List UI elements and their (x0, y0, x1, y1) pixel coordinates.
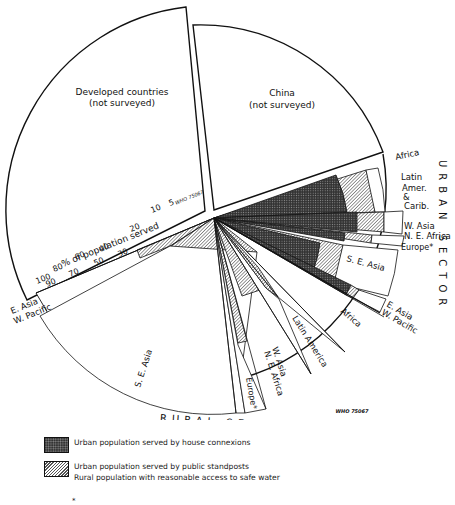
developed-sublabel: (not surveyed) (89, 98, 155, 108)
legend-item-house-connexions: Urban population served by house connexi… (44, 437, 444, 453)
svg-text:Africa: Africa (339, 306, 364, 329)
svg-text:Carib.: Carib. (404, 201, 429, 211)
legend: Urban population served by house connexi… (44, 437, 444, 491)
urban-sector-label: URBAN SECTOR (437, 160, 448, 311)
svg-text:Europe*: Europe* (401, 243, 433, 252)
developed-label: Developed countries (76, 87, 169, 97)
svg-text:W. Asia: W. Asia (404, 221, 435, 231)
svg-text:Africa: Africa (394, 147, 420, 162)
china-label: China (269, 88, 295, 98)
who-code-outer: WHO 75067 (335, 408, 369, 414)
svg-text:Latin: Latin (401, 172, 422, 182)
footnote-marker: * (72, 497, 76, 505)
hatched-swatch-icon (44, 461, 69, 477)
water-coverage-polar-diagram: % of population served 5 10 20 30 40 50 … (0, 0, 455, 420)
dark-dotted-swatch-icon (44, 437, 69, 453)
legend-item-standposts-rural: Urban population served by public standp… (44, 461, 444, 483)
china-sublabel: (not surveyed) (249, 100, 315, 110)
